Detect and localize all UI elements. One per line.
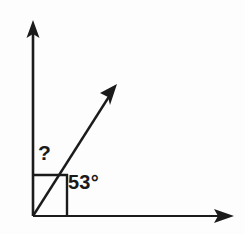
geometry-figure: ? 53° (0, 0, 245, 234)
unknown-angle-label: ? (38, 142, 51, 163)
known-angle-label: 53° (68, 172, 99, 192)
diagonal-ray-arrow-icon (100, 84, 117, 105)
geometry-canvas (0, 0, 245, 234)
